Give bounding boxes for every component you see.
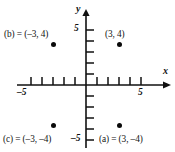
x-axis-arrow: [163, 81, 171, 88]
point-marker-a: [117, 123, 122, 128]
point-marker-c: [51, 123, 56, 128]
point-marker-top-right: [117, 42, 122, 47]
coordinate-plane: [0, 0, 175, 152]
point-label-c: (c) = (–3, –4): [3, 135, 51, 144]
x-axis-tick-label-five: 5: [138, 88, 143, 98]
x-axis-name: x: [163, 66, 168, 76]
point-label-b: (b) = (–3, 4): [4, 30, 48, 39]
x-axis-tick-label-negative-five: –5: [17, 88, 27, 98]
point-label-a: (a) = (3, –4): [99, 135, 143, 144]
y-axis-arrow: [82, 9, 89, 16]
y-axis-tick-label-five: 5: [74, 24, 79, 34]
y-axis-tick-label-negative-five: –5: [71, 134, 81, 144]
point-label-top-right: (3, 4): [105, 30, 125, 39]
y-axis-name: y: [76, 4, 80, 14]
point-marker-b: [51, 42, 56, 47]
